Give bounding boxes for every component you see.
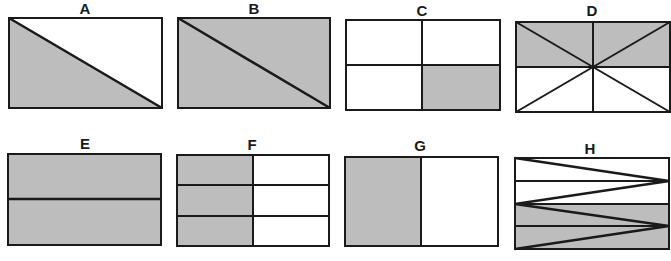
- panel-label-f: F: [232, 136, 272, 153]
- panel-label-d: D: [572, 2, 612, 19]
- panel-label-b: B: [234, 0, 274, 17]
- panel-label-a: A: [65, 0, 105, 17]
- fraction-figure-d: [515, 21, 671, 113]
- panel-label-c: C: [402, 2, 442, 19]
- fraction-figure-f: [176, 154, 330, 247]
- fraction-figure-c: [345, 19, 501, 111]
- panel-label-g: G: [400, 137, 440, 154]
- panel-label-e: E: [65, 135, 105, 152]
- fraction-figure-b: [177, 17, 331, 109]
- fraction-figure-a: [8, 17, 163, 109]
- fraction-figure-e: [7, 153, 162, 246]
- fraction-figure-g: [344, 156, 499, 247]
- fraction-figure-h: [514, 157, 670, 250]
- panel-label-h: H: [570, 140, 610, 157]
